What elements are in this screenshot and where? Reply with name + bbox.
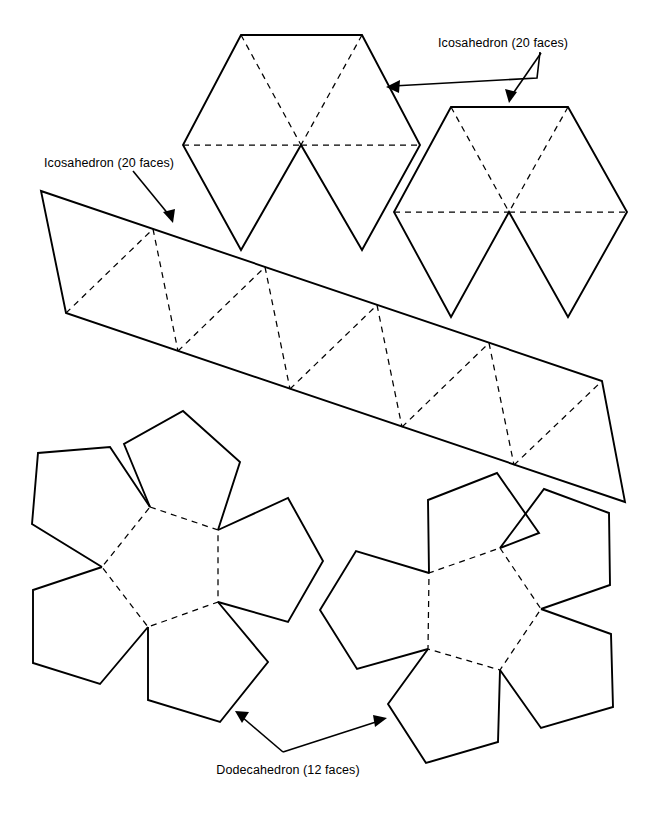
label-dodecahedron-bottom: Dodecahedron (12 faces)	[216, 763, 359, 777]
label-icosahedron-left: Icosahedron (20 faces)	[44, 156, 174, 170]
figure-root: Icosahedron (20 faces) Icosahedron (20 f…	[0, 0, 659, 813]
polyhedra-net-diagram: Icosahedron (20 faces) Icosahedron (20 f…	[0, 0, 659, 813]
label-icosahedron-top: Icosahedron (20 faces)	[438, 36, 568, 50]
